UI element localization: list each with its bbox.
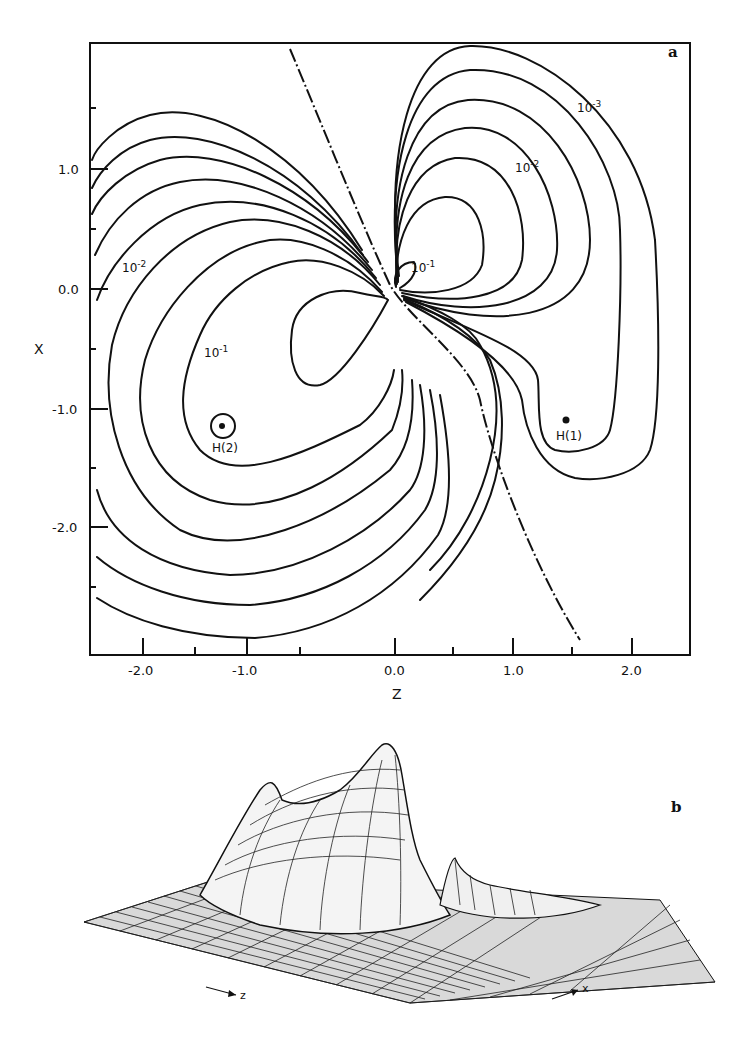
panel-label-b: b [671,798,682,816]
z-direction-arrow: z [206,987,246,1002]
x-axis-ticks [143,638,632,655]
y-tick-label: 1.0 [58,162,79,177]
y-tick-label: -2.0 [52,520,77,535]
contour-label: 10-1 [204,344,228,360]
panel-a-contour-plot: 1.0 0.0 -1.0 -2.0 X -2.0 -1.0 0.0 1.0 2.… [34,43,690,702]
y-axis-label: X [34,341,44,357]
right-lobe-contours [395,46,658,600]
surface-secondary-ridge [440,858,600,918]
contour-label: 10-2 [515,159,539,175]
plot-frame [90,43,690,655]
svg-text:x: x [582,982,589,995]
x-tick-label: -2.0 [128,663,153,678]
atom-label-h1: H(1) [556,429,582,443]
panel-b-surface-plot: b z x [84,744,715,1003]
x-tick-label: 2.0 [621,663,642,678]
x-tick-label: 0.0 [384,663,405,678]
contour-label: 10-1 [411,259,435,275]
figure: 1.0 0.0 -1.0 -2.0 X -2.0 -1.0 0.0 1.0 2.… [0,0,749,1039]
atom-label-h2: H(2) [212,441,238,455]
h1-nucleus-dot [563,417,570,424]
panel-label-a: a [668,43,678,61]
y-tick-label: -1.0 [52,402,77,417]
nodal-line [290,49,580,640]
y-axis-ticks [90,108,108,587]
h2-nucleus-dot [219,423,225,429]
y-tick-label: 0.0 [58,282,79,297]
svg-text:z: z [240,989,246,1002]
surface-main-hump [200,744,450,934]
x-tick-label: 1.0 [503,663,524,678]
contour-label: 10-2 [122,259,146,275]
x-axis-label: Z [392,686,402,702]
x-tick-label: -1.0 [232,663,257,678]
